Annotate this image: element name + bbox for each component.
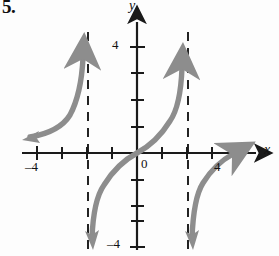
axis-group xyxy=(22,22,256,250)
origin-label: 0 xyxy=(141,156,148,172)
y-tick-label-4: 4 xyxy=(112,37,119,53)
figure-container: 5. xyxy=(0,0,279,256)
x-tick-label-4: 4 xyxy=(214,159,221,175)
curve-branch-left xyxy=(30,58,83,137)
y-axis-label: y xyxy=(129,0,135,14)
y-tick-label-neg4: –4 xyxy=(107,236,120,252)
x-axis-label: x xyxy=(264,142,270,158)
x-tick-label-neg4: –4 xyxy=(25,159,38,175)
curve-branch-right xyxy=(192,154,233,238)
graph-canvas xyxy=(0,0,279,256)
